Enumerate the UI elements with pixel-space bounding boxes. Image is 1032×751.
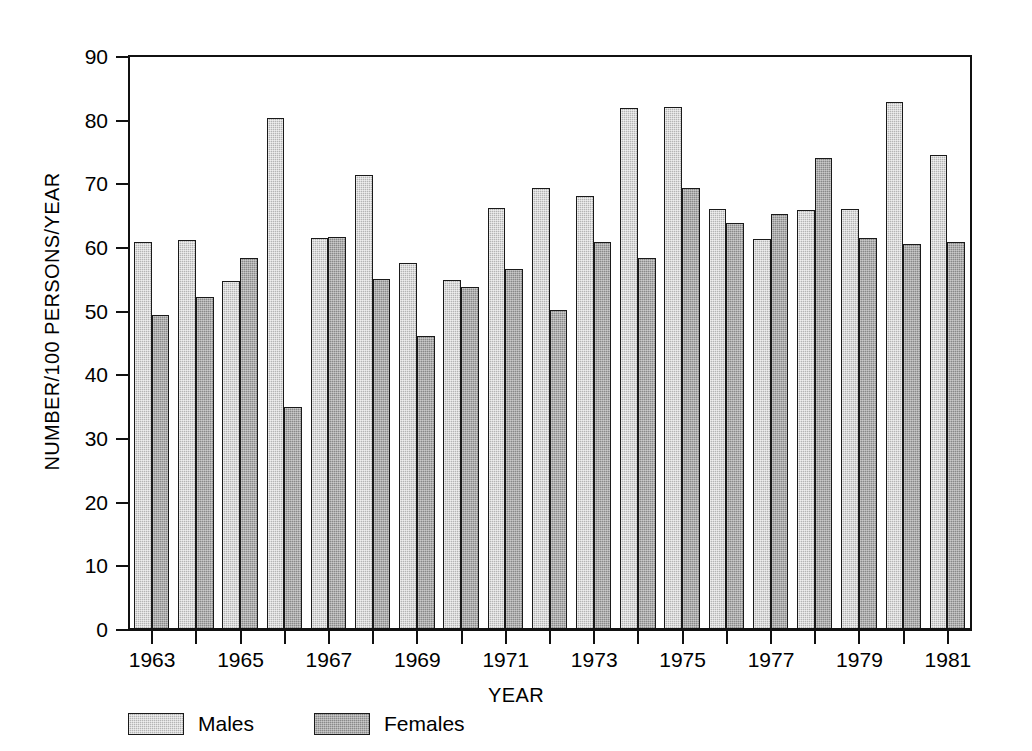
bar-group	[395, 57, 439, 630]
bar-males-1969	[399, 263, 417, 630]
bar-males-1967	[311, 238, 329, 630]
x-axis-tick	[947, 631, 949, 644]
x-axis-tick-label: 1963	[107, 648, 197, 672]
bar-males-1980	[886, 102, 904, 630]
bar-group	[661, 57, 705, 630]
bar-males-1972	[532, 188, 550, 630]
bar-group	[218, 57, 262, 630]
y-axis-tick	[116, 56, 128, 58]
x-axis-tick	[637, 631, 639, 644]
legend-item-females: Females	[314, 712, 465, 736]
bar-group	[263, 57, 307, 630]
bar-males-1965	[222, 281, 240, 630]
bar-males-1970	[443, 280, 461, 630]
bar-females-1976	[726, 223, 744, 630]
x-axis-tick	[814, 631, 816, 644]
bar-females-1972	[550, 310, 568, 630]
bar-males-1974	[620, 108, 638, 630]
bar-group	[749, 57, 793, 630]
x-axis-tick	[195, 631, 197, 644]
x-axis-tick-label: 1973	[549, 648, 639, 672]
x-axis-tick	[151, 631, 153, 644]
x-axis-tick	[682, 631, 684, 644]
bar-group	[484, 57, 528, 630]
bar-females-1978	[815, 158, 833, 630]
x-axis-tick	[328, 631, 330, 644]
bar-males-1968	[355, 175, 373, 630]
bar-males-1971	[488, 208, 506, 630]
bar-males-1977	[753, 239, 771, 630]
legend-item-males: Males	[128, 712, 254, 736]
bar-females-1977	[771, 214, 789, 630]
x-axis-tick	[461, 631, 463, 644]
bar-males-1973	[576, 196, 594, 630]
x-axis-tick	[505, 631, 507, 644]
bar-females-1963	[152, 315, 170, 630]
bar-females-1979	[859, 238, 877, 630]
x-axis-title: YEAR	[0, 684, 1032, 707]
bar-group	[528, 57, 572, 630]
y-axis-tick-label: 20	[48, 492, 108, 513]
y-axis-tick-label: 70	[48, 173, 108, 194]
bar-females-1971	[505, 269, 523, 630]
bar-females-1966	[284, 407, 302, 630]
x-axis-tick	[549, 631, 551, 644]
y-axis-tick-label: 0	[48, 619, 108, 640]
y-axis-tick	[116, 374, 128, 376]
bar-group	[174, 57, 218, 630]
y-axis-tick	[116, 438, 128, 440]
y-axis-tick-label: 40	[48, 364, 108, 385]
x-axis-tick	[858, 631, 860, 644]
bar-group	[130, 57, 174, 630]
bar-females-1964	[196, 297, 214, 630]
bar-males-1979	[841, 209, 859, 630]
x-axis-tick-label: 1969	[372, 648, 462, 672]
bar-females-1970	[461, 287, 479, 630]
bar-group	[882, 57, 926, 630]
x-axis-tick	[416, 631, 418, 644]
legend-label-males: Males	[198, 712, 254, 736]
female-swatch-icon	[314, 713, 370, 735]
bar-group	[307, 57, 351, 630]
x-axis-tick-label: 1977	[726, 648, 816, 672]
y-axis-tick	[116, 247, 128, 249]
y-axis-tick	[116, 311, 128, 313]
bar-group	[793, 57, 837, 630]
bar-group	[351, 57, 395, 630]
y-axis-tick	[116, 120, 128, 122]
bar-females-1973	[594, 242, 612, 630]
chart-legend: Males Females	[128, 712, 465, 736]
y-axis-tick	[116, 565, 128, 567]
male-swatch-icon	[128, 713, 184, 735]
bar-group	[705, 57, 749, 630]
x-axis-tick-label: 1975	[638, 648, 728, 672]
x-axis-tick-label: 1979	[814, 648, 904, 672]
bar-females-1975	[682, 188, 700, 630]
bar-females-1965	[240, 258, 258, 630]
bar-females-1967	[328, 237, 346, 630]
y-axis-tick	[116, 183, 128, 185]
x-axis-tick	[240, 631, 242, 644]
y-axis-tick-label: 10	[48, 555, 108, 576]
x-axis-tick	[903, 631, 905, 644]
bar-chart-figure: NUMBER/100 PERSONS/YEAR 0102030405060708…	[0, 0, 1032, 751]
bar-group	[926, 57, 970, 630]
bar-males-1963	[134, 242, 152, 630]
x-axis-tick-label: 1971	[461, 648, 551, 672]
bar-males-1975	[664, 107, 682, 630]
x-axis-tick	[593, 631, 595, 644]
legend-label-females: Females	[384, 712, 465, 736]
bar-males-1981	[930, 155, 948, 630]
bar-males-1976	[709, 209, 727, 630]
x-axis-tick-label: 1981	[903, 648, 993, 672]
bar-males-1978	[797, 210, 815, 630]
bar-group	[616, 57, 660, 630]
x-axis-tick	[372, 631, 374, 644]
y-axis-tick	[116, 502, 128, 504]
x-axis-tick	[726, 631, 728, 644]
x-axis-tick-label: 1967	[284, 648, 374, 672]
x-axis-tick	[284, 631, 286, 644]
bar-females-1968	[373, 279, 391, 630]
bar-group	[439, 57, 483, 630]
bar-group	[837, 57, 881, 630]
